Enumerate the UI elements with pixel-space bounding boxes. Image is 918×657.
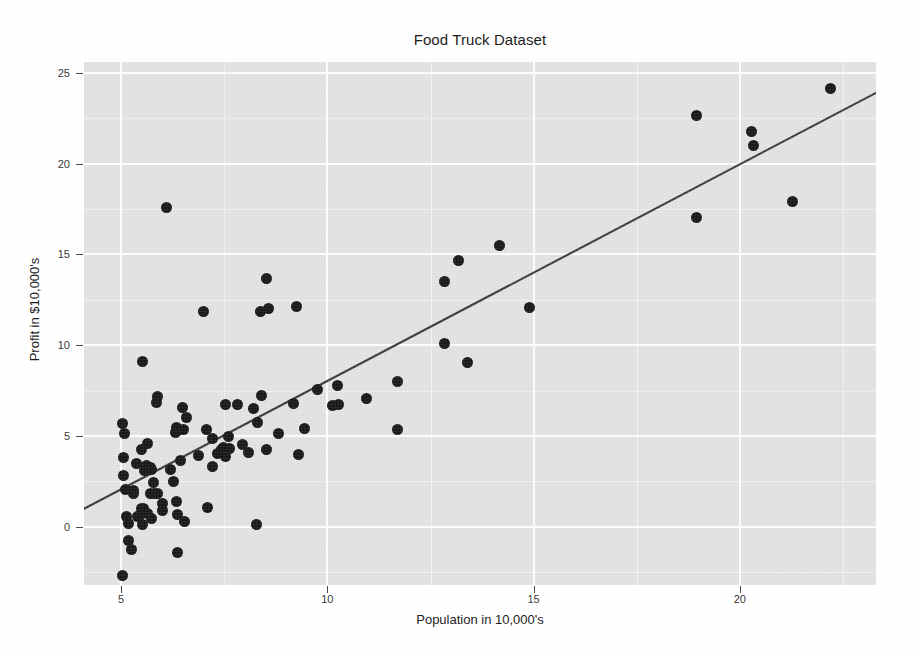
- y-axis-tick-labels: 0510152025: [40, 62, 70, 585]
- scatter-point: [746, 126, 757, 137]
- scatter-point: [171, 496, 182, 507]
- y-tick-label: 20: [58, 158, 70, 170]
- scatter-point: [248, 403, 259, 414]
- scatter-point: [223, 431, 234, 442]
- scatter-point: [175, 455, 186, 466]
- x-tick-mark: [121, 586, 122, 593]
- chart-title: Food Truck Dataset: [84, 31, 876, 48]
- scatter-point: [141, 460, 152, 471]
- y-tick-mark: [76, 436, 83, 437]
- scatter-point: [117, 570, 128, 581]
- x-tick-label: 5: [118, 593, 124, 605]
- scatter-point: [207, 433, 218, 444]
- chart-figure: Food Truck Dataset 0510152025 5101520 Po…: [0, 0, 918, 657]
- x-tick-mark: [327, 586, 328, 593]
- x-tick-mark: [740, 586, 741, 593]
- scatter-point: [172, 509, 183, 520]
- scatter-point: [462, 357, 473, 368]
- y-tick-mark: [76, 527, 83, 528]
- scatter-point: [439, 338, 450, 349]
- y-tick-label: 10: [58, 339, 70, 351]
- scatter-point: [439, 276, 450, 287]
- scatter-point: [117, 418, 128, 429]
- plot-panel: [84, 62, 876, 585]
- scatter-point: [177, 402, 188, 413]
- scatter-point: [157, 505, 168, 516]
- scatter-point: [332, 380, 343, 391]
- x-axis-title: Population in 10,000's: [84, 612, 876, 627]
- scatter-point: [288, 398, 299, 409]
- scatter-point: [119, 428, 130, 439]
- x-tick-label: 15: [528, 593, 540, 605]
- scatter-point: [392, 376, 403, 387]
- y-tick-mark: [76, 164, 83, 165]
- y-tick-label: 0: [64, 521, 70, 533]
- y-tick-label: 25: [58, 67, 70, 79]
- scatter-point: [392, 424, 403, 435]
- scatter-point: [494, 240, 505, 251]
- scatter-point: [118, 452, 129, 463]
- x-tick-label: 10: [321, 593, 333, 605]
- x-tick-mark: [534, 586, 535, 593]
- scatter-point: [123, 535, 134, 546]
- scatter-point: [252, 417, 263, 428]
- scatter-point: [137, 356, 148, 367]
- y-tick-label: 5: [64, 430, 70, 442]
- scatter-point: [453, 255, 464, 266]
- scatter-point: [243, 447, 254, 458]
- scatter-point: [333, 399, 344, 410]
- scatter-point: [172, 547, 183, 558]
- y-tick-label: 15: [58, 248, 70, 260]
- scatter-point: [148, 477, 159, 488]
- scatter-point: [145, 488, 156, 499]
- y-tick-mark: [76, 254, 83, 255]
- scatter-point: [142, 438, 153, 449]
- scatter-point: [134, 510, 145, 521]
- y-tick-mark: [76, 345, 83, 346]
- scatter-point: [152, 391, 163, 402]
- scatter-point: [291, 301, 302, 312]
- y-tick-mark: [76, 73, 83, 74]
- scatter-point: [261, 444, 272, 455]
- scatter-point: [261, 273, 272, 284]
- scatter-point: [787, 196, 798, 207]
- x-tick-label: 20: [734, 593, 746, 605]
- x-axis-tick-labels: 5101520: [84, 593, 876, 609]
- y-axis-title: Profit in $10,000's: [27, 190, 42, 430]
- scatter-point: [273, 428, 284, 439]
